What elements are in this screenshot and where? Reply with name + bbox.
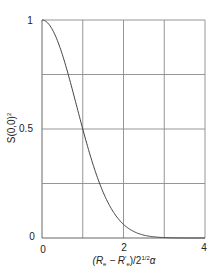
x-axis-label: (Re − R′e)/21/2α: [93, 255, 156, 267]
x-tick-2: 2: [121, 242, 127, 253]
y-tick-1: 1: [27, 15, 33, 26]
y-axis-label: S(0,0)2: [6, 112, 17, 143]
x-tick-4: 4: [201, 242, 207, 253]
y-tick-0: 0: [29, 231, 35, 242]
x-tick-0: 0: [40, 244, 46, 255]
y-tick-0.5: 0.5: [19, 123, 33, 134]
grid: [42, 20, 205, 238]
chart: 1 0.5 0 0 2 4 S(0,0)2 (Re − R′e)/21/2α: [0, 0, 217, 280]
